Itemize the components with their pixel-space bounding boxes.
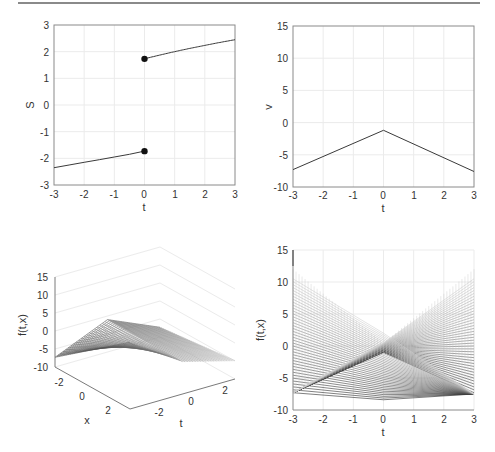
x-tick: -2 <box>319 190 328 201</box>
y-tick: -3 <box>40 180 49 191</box>
z-tick: -10 <box>34 362 49 373</box>
y-tick: 10 <box>277 277 289 288</box>
figure-canvas: 3 2 1 0 -1 -2 -3 -3 -2 -1 0 1 2 3 t S 15… <box>0 0 495 452</box>
plot-top-right: 15 10 5 0 -5 -10 -3 -2 -1 0 1 2 3 t v <box>262 21 477 214</box>
x-tick: 0 <box>79 391 85 402</box>
y-tick: -10 <box>274 405 289 416</box>
x-tick: -1 <box>349 190 358 201</box>
y-axis-label: S <box>24 101 36 108</box>
y-tick: 10 <box>277 53 289 64</box>
surface-mesh <box>55 320 235 362</box>
x-tick: -3 <box>50 189 59 200</box>
x-tick: -2 <box>319 414 328 425</box>
plot-bottom-right: 15 10 5 0 -5 -10 -3 -2 -1 0 1 2 3 t f(t,… <box>254 245 477 438</box>
t-tick: 2 <box>222 385 228 396</box>
z-tick: 0 <box>42 326 48 337</box>
x-tick: -2 <box>55 377 64 388</box>
grid <box>293 26 474 187</box>
grid <box>54 25 235 185</box>
y-tick: -5 <box>279 373 288 384</box>
x-tick: 2 <box>441 190 447 201</box>
x-tick: -1 <box>110 189 119 200</box>
t-tick: 0 <box>188 396 194 407</box>
z-tick-labels: 15 10 5 0 -5 -10 <box>34 272 49 373</box>
x-tick: 1 <box>411 190 417 201</box>
x-tick: -3 <box>289 190 298 201</box>
y-tick: 1 <box>43 73 49 84</box>
y-tick: 0 <box>43 100 49 111</box>
plot-bottom-left-3d: 15 10 5 0 -5 -10 f(t,x) -2 0 2 x -2 0 2 … <box>16 247 235 429</box>
x-tick: -2 <box>80 189 89 200</box>
x-tick-labels: -3 -2 -1 0 1 2 3 <box>289 414 478 425</box>
y-tick: -10 <box>274 182 289 193</box>
y-tick: 5 <box>282 85 288 96</box>
x-tick: 1 <box>411 414 417 425</box>
z-tick: 5 <box>42 308 48 319</box>
y-tick: 3 <box>43 20 49 31</box>
y-tick: 0 <box>282 118 288 129</box>
y-tick: 2 <box>43 47 49 58</box>
x-axis-label: x <box>84 414 90 426</box>
y-tick: 5 <box>282 309 288 320</box>
x-tick: 0 <box>380 190 386 201</box>
plot-top-left: 3 2 1 0 -1 -2 -3 -3 -2 -1 0 1 2 3 t S <box>24 20 238 213</box>
y-axis-label: v <box>262 104 274 110</box>
x-tick: 3 <box>471 414 477 425</box>
y-tick-labels: 3 2 1 0 -1 -2 -3 <box>40 20 49 191</box>
x-tick: 3 <box>232 189 238 200</box>
y-tick: -1 <box>40 127 49 138</box>
y-tick: 15 <box>277 245 289 256</box>
y-axis-label: f(t,x) <box>254 319 266 341</box>
x-tick: 3 <box>471 190 477 201</box>
x-tick: -3 <box>289 414 298 425</box>
x-axis-label: t <box>381 426 384 438</box>
x-axis-label: t <box>381 202 384 214</box>
x-tick: 2 <box>441 414 447 425</box>
y-tick: 0 <box>282 341 288 352</box>
z-axis-label: f(t,x) <box>16 314 28 336</box>
x-axis-label: t <box>142 201 145 213</box>
z-tick: -5 <box>39 344 48 355</box>
x-tick: 2 <box>105 405 111 416</box>
t-axis-label: t <box>179 417 182 429</box>
y-tick: -5 <box>279 150 288 161</box>
x-tick-labels: -3 -2 -1 0 1 2 3 <box>289 190 478 201</box>
y-tick-labels: 15 10 5 0 -5 -10 <box>274 245 289 416</box>
x-tick: 0 <box>380 414 386 425</box>
z-tick: 10 <box>37 290 49 301</box>
x-tick: 0 <box>141 189 147 200</box>
x-tick-labels: -3 -2 -1 0 1 2 3 <box>50 189 239 200</box>
x-tick: -1 <box>349 414 358 425</box>
y-tick: 15 <box>277 21 289 32</box>
x-tick: 1 <box>172 189 178 200</box>
y-tick: -2 <box>40 153 49 164</box>
x-tick: 2 <box>202 189 208 200</box>
t-tick-labels: -2 0 2 <box>155 385 229 418</box>
y-tick-labels: 15 10 5 0 -5 -10 <box>274 21 289 193</box>
z-tick: 15 <box>37 272 49 283</box>
t-tick: -2 <box>155 407 164 418</box>
